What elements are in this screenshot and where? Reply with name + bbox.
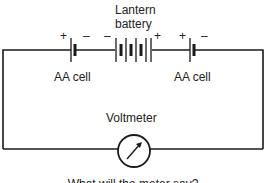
aa-cell-right-label: AA cell [174, 70, 211, 84]
aa-cell-left-label: AA cell [54, 70, 91, 84]
voltmeter-label: Voltmeter [106, 111, 157, 125]
circuit-diagram: + – AA cell – + Lantern battery + – AA c… [0, 0, 266, 183]
aa-cell-right: + – AA cell [174, 29, 211, 84]
question-text: What will the meter say? [68, 177, 199, 183]
plus-sign: + [179, 29, 186, 43]
minus-sign: – [201, 29, 208, 43]
minus-sign: – [104, 29, 111, 43]
lantern-label-line2: battery [115, 17, 152, 31]
minus-sign: – [83, 29, 90, 43]
plus-sign: + [60, 29, 67, 43]
wire-right [194, 50, 263, 149]
voltmeter: Voltmeter [106, 111, 157, 167]
lantern-label-line1: Lantern [115, 3, 156, 17]
wire-left [3, 50, 71, 149]
plus-sign: + [154, 29, 161, 43]
aa-cell-left: + – AA cell [54, 29, 91, 84]
lantern-battery: – + Lantern battery [104, 3, 161, 62]
